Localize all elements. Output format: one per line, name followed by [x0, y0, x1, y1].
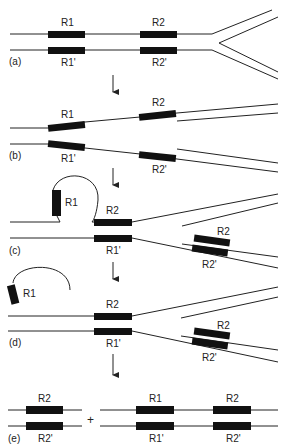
panel-label-b: (b) — [9, 150, 21, 161]
label-loop-r1: R1 — [65, 197, 78, 208]
label-r2: R2 — [106, 205, 119, 216]
excised-repeat-r1-box — [7, 284, 19, 304]
repeat-r1-box — [48, 121, 86, 132]
bottom-strand — [10, 238, 278, 268]
repeat-r2-box — [94, 313, 132, 320]
repeat-r1prime-box — [48, 47, 85, 54]
label-product1-r2: R2 — [38, 393, 51, 404]
new-repeat-r2prime-box — [192, 245, 229, 257]
label-product2-r1: R1 — [149, 393, 162, 404]
label-excised-r1: R1 — [23, 288, 36, 299]
bottom-strand — [8, 331, 278, 362]
new-top-strand — [181, 297, 278, 318]
label-r1prime: R1' — [106, 245, 121, 256]
label-r2prime: R2' — [152, 164, 167, 175]
repeat-r2prime-box — [140, 47, 177, 54]
repeat-r2-box — [139, 110, 177, 121]
new-top-strand — [182, 203, 278, 226]
repeat-r2-box — [140, 31, 177, 38]
label-r2: R2 — [106, 299, 119, 310]
repeat-r1prime-box — [94, 235, 132, 242]
repeat-r2prime-box — [139, 151, 177, 162]
repeat-r1prime-box — [48, 140, 86, 151]
label-r1: R1 — [61, 17, 74, 28]
new-top-strand — [177, 113, 278, 121]
label-r2: R2 — [152, 97, 165, 108]
label-r1prime: R1' — [106, 338, 121, 349]
fork-new-strands — [219, 17, 278, 72]
label-new-r2: R2 — [217, 226, 230, 237]
label-product2-r1prime: R1' — [149, 433, 164, 444]
panel-label-a: (a) — [9, 56, 21, 67]
product1-r2prime-box — [26, 422, 63, 430]
label-r1prime: R1' — [61, 57, 76, 68]
product2-r1prime-box — [136, 422, 174, 430]
top-strand — [10, 10, 272, 34]
label-new-r2prime: R2' — [202, 352, 217, 363]
label-new-r2: R2 — [217, 320, 230, 331]
product1-r2-box — [26, 406, 63, 414]
product2-r1-box — [136, 406, 174, 414]
label-r1prime: R1' — [61, 153, 76, 164]
repeat-r1prime-box — [94, 328, 132, 335]
panel-e: R2 R2' (e) + R1 R2 R1' R2' — [8, 393, 278, 444]
product2-r2-box — [213, 406, 251, 414]
panel-a: R1 R2 R1' R2' (a) — [9, 10, 278, 79]
looped-repeat-r1-box — [52, 190, 61, 216]
label-product1-r2prime: R2' — [38, 433, 53, 444]
label-r1: R1 — [61, 109, 74, 120]
panel-label-c: (c) — [9, 245, 21, 256]
panel-label-e: (e) — [8, 433, 20, 444]
bottom-strand — [10, 50, 278, 79]
panel-c: R1 R2 R1' R2 R2' (c) — [9, 176, 278, 270]
top-strand — [8, 287, 278, 316]
label-r2prime: R2' — [152, 57, 167, 68]
excised-loop-strand — [13, 267, 70, 290]
product2-r2prime-box — [213, 422, 251, 430]
label-r2: R2 — [152, 17, 165, 28]
replication-slippage-diagram: R1 R2 R1' R2' (a) R1 R2 R1' R2' (b) R1 R… — [0, 0, 285, 446]
plus-sign: + — [87, 413, 94, 427]
label-new-r2prime: R2' — [202, 259, 217, 270]
panel-label-d: (d) — [9, 337, 21, 348]
top-strand-with-loop — [10, 176, 278, 222]
repeat-r1-box — [48, 31, 85, 38]
repeat-r2-paired-box — [94, 219, 132, 226]
label-product2-r2: R2 — [226, 393, 239, 404]
panel-d: R1 R2 R1' R2 R2' (d) — [7, 267, 278, 363]
label-product2-r2prime: R2' — [226, 433, 241, 444]
panel-b: R1 R2 R1' R2' (b) — [9, 97, 278, 175]
